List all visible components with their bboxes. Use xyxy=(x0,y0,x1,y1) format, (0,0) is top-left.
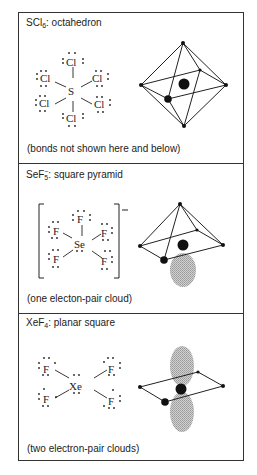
central-atom-xe: Xe xyxy=(69,380,82,392)
svg-text:Cl: Cl xyxy=(92,72,102,84)
svg-text:F: F xyxy=(77,213,83,225)
lone-pair-cloud xyxy=(170,253,196,287)
lone-pair-cloud-upper xyxy=(170,346,194,386)
svg-text:F: F xyxy=(101,227,107,239)
svg-text:Cl: Cl xyxy=(94,98,104,110)
central-atom xyxy=(178,240,189,251)
central-atom-se: Se xyxy=(74,238,85,250)
central-atom xyxy=(176,384,187,395)
svg-text:F: F xyxy=(53,253,59,265)
svg-text:F: F xyxy=(108,395,114,407)
octahedron-atoms xyxy=(139,41,228,128)
lewis-structure-sef5: Se F F F F F xyxy=(39,204,128,278)
svg-text:F: F xyxy=(101,255,107,267)
svg-text:Cl: Cl xyxy=(39,97,49,109)
central-atom-s: S xyxy=(68,85,74,97)
svg-text:Cl: Cl xyxy=(40,72,50,84)
lewis-structure-scl6: S Cl Cl Cl Cl Cl Cl xyxy=(35,52,111,127)
svg-text:Cl: Cl xyxy=(66,56,76,68)
svg-text:F: F xyxy=(108,363,114,375)
molecule-drawings: S Cl Cl Cl Cl Cl Cl xyxy=(0,0,257,475)
lewis-structure-xef4: Xe F F F F xyxy=(38,357,121,409)
svg-text:Cl: Cl xyxy=(66,112,76,124)
svg-text:F: F xyxy=(43,363,49,375)
svg-text:F: F xyxy=(43,393,49,405)
central-atom xyxy=(179,79,190,90)
svg-text:F: F xyxy=(53,225,59,237)
lone-pair-cloud-lower xyxy=(170,392,194,432)
square-pyramid-model xyxy=(140,204,223,260)
